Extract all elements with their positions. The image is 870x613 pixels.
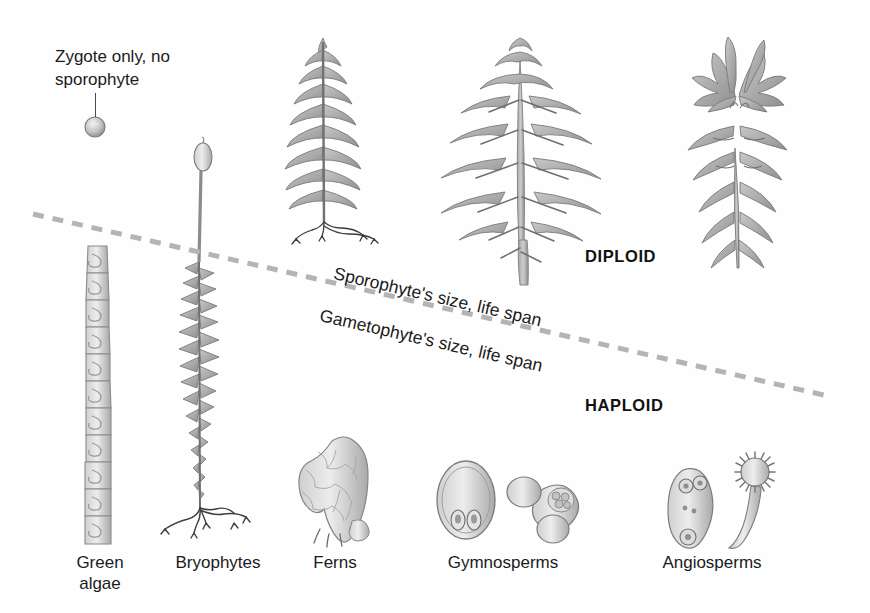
zygote-note-label: Zygote only, no sporophyte [55,45,170,91]
fern-rachis [323,42,324,222]
group-label-gymnosperms: Gymnosperms [441,552,565,573]
moss-rhizoids [161,508,250,538]
gymnosperm-pollen-illustration [507,477,579,543]
moss-gametophyte-illustration [179,262,219,499]
fern-gametophyte-illustration [299,437,369,547]
lily-plant-illustration [688,37,787,268]
pine-tree-illustration [441,38,601,285]
moss-sporophyte-illustration [194,137,212,262]
group-label-angiosperms: Angiosperms [653,552,771,573]
group-label-green-algae: Green algae [62,552,138,594]
zygote-leader-line [95,93,96,117]
angiosperm-embryo-sac-illustration [668,469,713,549]
angiosperm-pollen-tube-illustration [729,452,775,548]
zygote-illustration [85,117,105,137]
fern-roots [292,222,378,244]
alternation-of-generations-figure: Zygote only, no sporophyte DIPLOID HAPLO… [0,0,870,613]
gymnosperm-ovule-illustration [437,461,495,539]
haploid-label: HAPLOID [585,396,663,415]
moss-stem [199,262,200,508]
group-label-ferns: Ferns [305,552,365,573]
green-algae-filament [85,246,111,544]
diploid-label: DIPLOID [585,247,656,266]
fern-sporophyte-illustration [285,38,361,209]
group-label-bryophytes: Bryophytes [163,552,273,573]
